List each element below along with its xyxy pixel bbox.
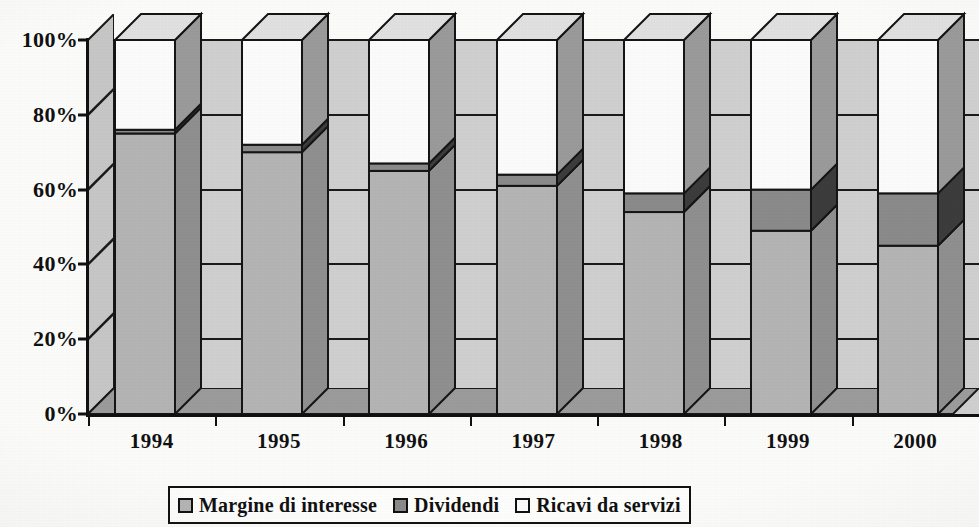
legend-item: Margine di interesse — [178, 494, 377, 517]
y-axis-tick-label: 0% — [0, 401, 78, 427]
legend-swatch-icon — [515, 498, 530, 513]
legend-label: Margine di interesse — [199, 494, 377, 517]
x-axis-tick-mark — [597, 414, 599, 426]
legend-swatch-icon — [178, 498, 193, 513]
x-axis-tick-mark — [88, 414, 90, 426]
legend-label: Ricavi da servizi — [536, 494, 680, 517]
y-axis-tick-label: 80% — [0, 102, 78, 128]
x-axis-tick-label-1996: 1996 — [343, 429, 470, 454]
x-axis-tick-mark — [724, 414, 726, 426]
x-axis-tick-label-1994: 1994 — [88, 429, 215, 454]
legend-label: Dividendi — [414, 494, 499, 517]
x-axis-tick-label-2000: 2000 — [852, 429, 979, 454]
bar-column-2000 — [878, 14, 968, 418]
y-axis-tick-label: 40% — [0, 251, 78, 277]
x-axis-tick-mark — [470, 414, 472, 426]
bar-column-1995 — [242, 14, 332, 418]
x-axis-tick-label-1997: 1997 — [470, 429, 597, 454]
stacked-bar-chart: 0%20%40%60%80%100% 199419951996199719981… — [0, 0, 979, 470]
bar-column-1999 — [751, 14, 841, 418]
chart-left-wall — [88, 14, 114, 414]
bar-column-1994 — [115, 14, 205, 418]
x-axis — [86, 414, 979, 417]
legend-swatch-icon — [393, 498, 408, 513]
y-axis-tick-label: 60% — [0, 177, 78, 203]
x-axis-tick-mark — [215, 414, 217, 426]
legend-item: Ricavi da servizi — [515, 494, 680, 517]
chart-legend: Margine di interesseDividendiRicavi da s… — [168, 486, 691, 524]
y-axis — [86, 38, 89, 417]
legend-item: Dividendi — [393, 494, 499, 517]
x-axis-tick-mark — [343, 414, 345, 426]
bar-column-1997 — [497, 14, 587, 418]
y-axis-tick-label: 100% — [0, 27, 78, 53]
x-axis-tick-label-1999: 1999 — [724, 429, 851, 454]
x-axis-tick-mark — [852, 414, 854, 426]
y-axis-tick-label: 20% — [0, 326, 78, 352]
x-axis-tick-label-1995: 1995 — [215, 429, 342, 454]
bar-column-1996 — [369, 14, 459, 418]
bar-column-1998 — [624, 14, 714, 418]
x-axis-tick-label-1998: 1998 — [597, 429, 724, 454]
